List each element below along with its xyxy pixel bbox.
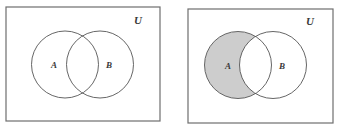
venn-diagram-canvas: U A B U A B	[0, 0, 341, 135]
venn-panel-shaded: U A B	[188, 9, 333, 123]
set-label-b-right: B	[278, 61, 285, 71]
venn-diagram-figure: U A B U A B	[0, 0, 341, 135]
universe-label-right: U	[306, 15, 315, 27]
set-label-b-left: B	[105, 60, 112, 70]
set-label-a-right: A	[224, 61, 231, 71]
universe-label-left: U	[134, 14, 143, 26]
set-label-a-left: A	[50, 60, 57, 70]
venn-panel-unshaded: U A B	[6, 7, 160, 121]
